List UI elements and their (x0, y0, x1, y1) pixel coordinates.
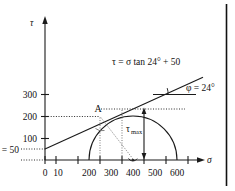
x-tick-label-400: 400 (126, 168, 141, 178)
x-tick-label-10: 10 (53, 168, 63, 178)
x-tick-label-0: 0 (43, 168, 48, 178)
cohesion-label: c = 50 (0, 145, 19, 155)
friction-angle-label: φ = 24° (186, 83, 215, 93)
y-tick-label-200: 200 (23, 112, 38, 122)
tau-max-symbol: τ (126, 124, 130, 134)
y-tick-label-100: 100 (23, 134, 38, 144)
x-tick-label-600: 600 (170, 168, 185, 178)
tau-max-subscript: max (131, 128, 143, 135)
y-axis-label: τ (30, 18, 34, 28)
envelope-equation-label: τ = σ tan 24° + 50 (112, 57, 181, 67)
failure-envelope-line (45, 77, 203, 149)
tangent-point-label: A (94, 103, 102, 114)
x-tick-label-300: 300 (104, 168, 119, 178)
x-tick-label-200: 200 (82, 168, 97, 178)
point-a-angle-arc (96, 129, 105, 131)
y-tick-label-300: 300 (23, 90, 38, 100)
tau-max-label: τ max (126, 124, 143, 135)
tau-max-arrow (142, 108, 147, 160)
x-axis-arrowhead (197, 157, 205, 162)
mohr-diagram-svg: τ σ 300 200 100 0 10 200 300 400 500 600… (0, 0, 235, 191)
x-axis (45, 157, 205, 162)
mohr-circle-figure: τ σ 300 200 100 0 10 200 300 400 500 600… (0, 0, 235, 191)
x-tick-label-500: 500 (148, 168, 163, 178)
x-axis-label: σ (207, 155, 212, 165)
y-axis-arrowhead (42, 16, 47, 24)
